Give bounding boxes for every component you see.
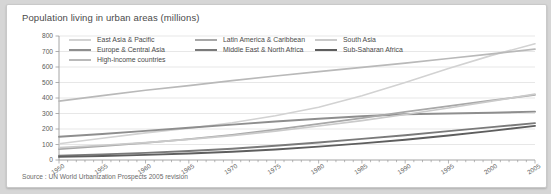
legend-label: East Asia & Pacific	[97, 36, 155, 43]
y-axis-labels: 0100200300400500600700800	[42, 32, 53, 163]
legend-label: Europe & Central Asia	[97, 46, 165, 54]
x-tick-label: 1980	[309, 162, 325, 176]
chart-figure: Population living in urban areas (millio…	[6, 4, 547, 188]
y-axis-ticks	[56, 36, 60, 160]
x-tick-label: 1970	[223, 162, 239, 176]
x-tick-label: 1985	[353, 162, 369, 176]
line-chart: 0100200300400500600700800 19501955196019…	[7, 5, 546, 187]
x-tick-label: 2005	[526, 162, 542, 176]
x-axis-minor-ticks	[59, 160, 535, 164]
y-tick-label: 600	[42, 63, 53, 70]
y-tick-label: 500	[42, 79, 53, 86]
y-tick-label: 700	[42, 48, 53, 55]
x-tick-label: 2000	[483, 162, 499, 176]
y-tick-label: 100	[42, 141, 53, 148]
chart-legend: East Asia & PacificLatin America & Carib…	[69, 36, 403, 64]
legend-label: South Asia	[343, 36, 376, 43]
y-tick-label: 300	[42, 110, 53, 117]
x-tick-label: 1995	[439, 162, 455, 176]
y-tick-label: 0	[49, 156, 53, 163]
legend-label: Sub-Saharan Africa	[343, 46, 403, 53]
x-tick-label: 1975	[266, 162, 282, 176]
x-tick-label: 1990	[396, 162, 412, 176]
series-line	[59, 95, 535, 149]
legend-label: Latin America & Caribbean	[223, 36, 305, 43]
source-note: Source : UN World Urbanization Prospects…	[22, 173, 188, 180]
plot-area: 0100200300400500600700800 19501955196019…	[7, 5, 546, 187]
y-tick-label: 200	[42, 125, 53, 132]
y-tick-label: 800	[42, 32, 53, 39]
y-tick-label: 400	[42, 94, 53, 101]
legend-label: Middle East & North Africa	[223, 46, 304, 53]
legend-label: High-income countries	[97, 56, 166, 64]
